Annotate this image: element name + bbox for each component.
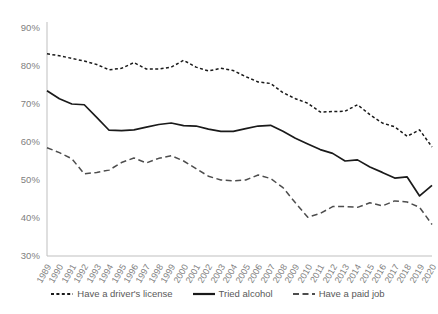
series-line-1	[47, 54, 432, 147]
legend-label: Have a paid job	[319, 288, 385, 299]
legend-swatch-solid	[193, 290, 215, 298]
legend-label: Tried alcohol	[219, 288, 273, 299]
legend-swatch-dashed	[293, 290, 315, 298]
legend-item-2[interactable]: Tried alcohol	[193, 288, 273, 299]
legend-item-1[interactable]: Have a driver's license	[51, 288, 172, 299]
chart-legend: Have a driver's licenseTried alcoholHave…	[0, 288, 436, 299]
legend-item-3[interactable]: Have a paid job	[293, 288, 385, 299]
legend-label: Have a driver's license	[77, 288, 172, 299]
series-line-3	[47, 148, 432, 225]
legend-swatch-dotted	[51, 290, 73, 298]
